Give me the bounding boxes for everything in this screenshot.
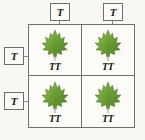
allele-header-top-left: T [50, 3, 70, 21]
punnett-grid: TT TT [28, 24, 135, 128]
leaf-icon [91, 28, 125, 62]
genotype-label: TT [49, 62, 61, 72]
leaf-icon [38, 80, 72, 114]
genotype-label: TT [102, 114, 114, 124]
punnett-cell: TT [29, 76, 82, 127]
punnett-cell: TT [82, 76, 135, 127]
leaf-icon [91, 80, 125, 114]
allele-letter: T [11, 95, 18, 106]
allele-header-left-bottom: T [4, 92, 24, 110]
punnett-square-diagram: T T T T [0, 0, 145, 140]
leaf-icon [38, 28, 72, 62]
punnett-cell: TT [29, 25, 82, 76]
allele-header-left-top: T [4, 47, 24, 65]
allele-letter: T [110, 6, 117, 17]
allele-letter: T [57, 6, 64, 17]
genotype-label: TT [49, 114, 61, 124]
allele-letter: T [11, 50, 18, 61]
genotype-label: TT [102, 62, 114, 72]
punnett-cell: TT [82, 25, 135, 76]
allele-header-top-right: T [103, 3, 123, 21]
